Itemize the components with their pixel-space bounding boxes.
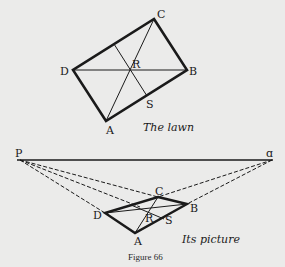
lawn-figure: C B D A R S The lawn — [60, 8, 197, 137]
figure-label: Figure 66 — [128, 252, 163, 262]
label-q: ɑ — [266, 147, 273, 160]
label-p: P — [15, 147, 23, 160]
label-c2: C — [155, 185, 163, 198]
label-d2: D — [93, 209, 102, 222]
vanishing-lines — [20, 160, 272, 213]
picture-figure: P ɑ C B D A R S Its picture Figure 66 — [15, 147, 273, 262]
label-a: A — [105, 124, 115, 137]
label-c: C — [157, 8, 165, 21]
label-b2: B — [190, 202, 198, 215]
label-r2: R — [145, 212, 154, 225]
label-b: B — [189, 65, 197, 78]
label-s2: S — [165, 214, 173, 227]
figure-66-diagram: C B D A R S The lawn P ɑ C B D A R S Its… — [0, 0, 285, 267]
picture-caption: Its picture — [181, 233, 240, 246]
label-r: R — [132, 58, 141, 71]
label-a2: A — [133, 235, 143, 248]
label-d: D — [60, 65, 69, 78]
label-s: S — [146, 98, 154, 111]
lawn-caption: The lawn — [143, 121, 194, 134]
